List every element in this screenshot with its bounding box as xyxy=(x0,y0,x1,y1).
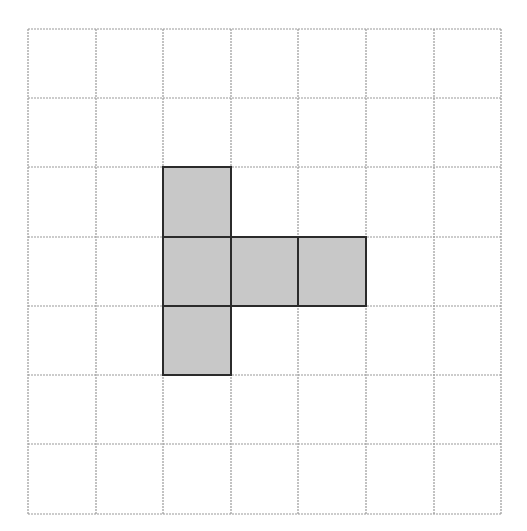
shaded-cell xyxy=(298,237,366,306)
shaded-cell xyxy=(163,306,231,375)
shaded-cell xyxy=(231,237,298,306)
shaded-cell xyxy=(163,237,231,306)
shaded-shape xyxy=(163,167,366,375)
shaded-cell xyxy=(163,167,231,237)
grid-canvas xyxy=(0,0,527,531)
